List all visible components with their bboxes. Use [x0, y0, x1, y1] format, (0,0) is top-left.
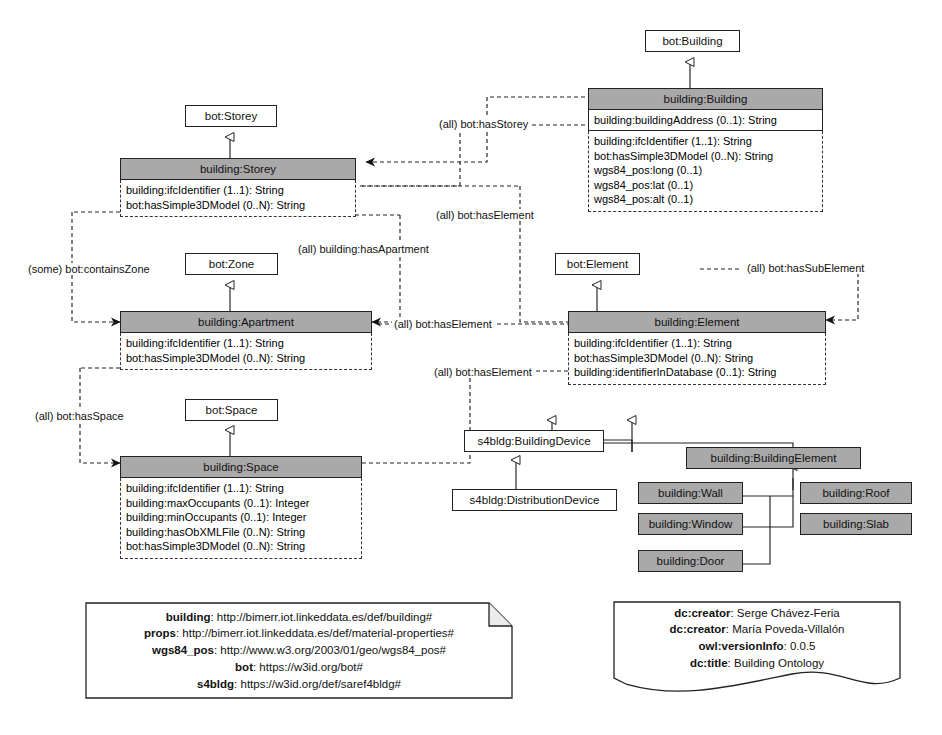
attr-row: building:ifcIdentifier (1..1): String	[574, 336, 820, 351]
class-building-buildingelement[interactable]: building:BuildingElement	[686, 447, 861, 469]
class-building-roof[interactable]: building:Roof	[800, 482, 912, 504]
prefix-uri: http://bimerr.iot.linkeddata.es/def/buil…	[217, 611, 432, 623]
prefix-key: s4bldg	[197, 678, 234, 690]
class-bot-zone[interactable]: bot:Zone	[185, 253, 278, 275]
class-bot-storey-title: bot:Storey	[185, 105, 277, 127]
metadata-note-line: dc:creator: Serge Chávez-Feria	[674, 605, 840, 622]
wire-window-slab	[740, 496, 793, 527]
class-building-storey-attrs: building:ifcIdentifier (1..1): String bo…	[120, 180, 356, 217]
attr-row: building:minOccupants (0..1): Integer	[126, 510, 356, 525]
attr-row: building:maxOccupants (0..1): Integer	[126, 496, 356, 511]
attr-row: bot:hasSimple3DModel (0..N): String	[574, 351, 820, 366]
class-building-space-attrs: building:ifcIdentifier (1..1): String bu…	[120, 478, 362, 559]
class-bot-building-title: bot:Building	[645, 30, 740, 52]
prefix-uri: https://w3id.org/def/saref4bldg#	[240, 678, 400, 690]
prefix-note-line: bot: https://w3id.org/bot#	[235, 659, 363, 676]
edge-label-has-sub-element: (all) bot:hasSubElement	[745, 262, 866, 274]
class-bot-element-title: bot:Element	[555, 253, 640, 275]
metadata-note: dc:creator: Serge Chávez-Feria dc:creato…	[612, 600, 902, 698]
prefix-note-line: s4bldg: https://w3id.org/def/saref4bldg#	[197, 676, 401, 693]
attr-row: building:ifcIdentifier (1..1): String	[594, 134, 817, 149]
metadata-key: dc:creator	[670, 623, 726, 635]
attr-row: wgs84_pos:alt (0..1)	[594, 192, 817, 207]
prefix-note-text: building: http://bimerr.iot.linkeddata.e…	[85, 602, 513, 699]
edge-label-has-space: (all) bot:hasSpace	[33, 410, 126, 422]
prefix-uri: https://w3id.org/bot#	[259, 661, 363, 673]
metadata-key: dc:title	[690, 657, 728, 669]
class-building-buildingelement-title: building:BuildingElement	[686, 447, 861, 469]
metadata-note-text: dc:creator: Serge Chávez-Feria dc:creato…	[612, 600, 902, 676]
prefix-note-line: props: http://bimerr.iot.linkeddata.es/d…	[144, 625, 454, 642]
class-building-wall[interactable]: building:Wall	[638, 482, 743, 504]
prefix-uri: http://www.w3.org/2003/01/geo/wgs84_pos#	[220, 644, 446, 656]
metadata-key: owl:versionInfo	[699, 640, 784, 652]
class-s4bldg-buildingdevice-title: s4bldg:BuildingDevice	[464, 430, 604, 452]
class-building-storey[interactable]: building:Storey building:ifcIdentifier (…	[120, 158, 356, 217]
prefix-key: building	[166, 611, 211, 623]
class-building-window-title: building:Window	[638, 513, 743, 535]
class-building-element-title: building:Element	[568, 311, 826, 333]
metadata-note-line: owl:versionInfo: 0.0.5	[699, 638, 816, 655]
attr-row: bot:hasSimple3DModel (0..N): String	[126, 198, 350, 213]
edge-label-has-element-1: (all) bot:hasElement	[434, 209, 536, 221]
wire-door	[740, 496, 770, 564]
class-building-element-attrs: building:ifcIdentifier (1..1): String bo…	[568, 333, 826, 385]
class-bot-zone-title: bot:Zone	[185, 253, 278, 275]
attr-row: bot:hasSimple3DModel (0..N): String	[126, 351, 366, 366]
class-building-door[interactable]: building:Door	[638, 550, 743, 572]
metadata-value: María Poveda-Villalón	[732, 623, 844, 635]
attr-row: wgs84_pos:lat (0..1)	[594, 178, 817, 193]
class-building-element[interactable]: building:Element building:ifcIdentifier …	[568, 311, 826, 385]
metadata-value: Serge Chávez-Feria	[737, 607, 840, 619]
class-building-apartment-attrs: building:ifcIdentifier (1..1): String bo…	[120, 333, 372, 370]
attr-row: building:ifcIdentifier (1..1): String	[126, 183, 350, 198]
prefix-key: bot	[235, 661, 253, 673]
prefix-note-line: building: http://bimerr.iot.linkeddata.e…	[166, 609, 433, 626]
attr-row: building:ifcIdentifier (1..1): String	[126, 481, 356, 496]
class-building-building-attrs: building:ifcIdentifier (1..1): String bo…	[588, 131, 823, 212]
class-building-wall-title: building:Wall	[638, 482, 743, 504]
class-building-building-mid: building:buildingAddress (0..1): String	[588, 110, 823, 131]
metadata-value: Building Ontology	[734, 657, 824, 669]
prefix-note: building: http://bimerr.iot.linkeddata.e…	[85, 602, 513, 699]
class-bot-building[interactable]: bot:Building	[645, 30, 740, 52]
class-s4bldg-distributiondevice[interactable]: s4bldg:DistributionDevice	[452, 489, 617, 511]
prefix-uri: http://bimerr.iot.linkeddata.es/def/mate…	[182, 627, 454, 639]
class-building-slab[interactable]: building:Slab	[800, 513, 912, 535]
class-building-space-title: building:Space	[120, 456, 362, 478]
class-bot-space[interactable]: bot:Space	[185, 399, 278, 421]
class-building-space[interactable]: building:Space building:ifcIdentifier (1…	[120, 456, 362, 559]
attr-row: wgs84_pos:long (0..1)	[594, 163, 817, 178]
attr-row: bot:hasSimple3DModel (0..N): String	[594, 149, 817, 164]
class-s4bldg-buildingdevice[interactable]: s4bldg:BuildingDevice	[464, 430, 604, 452]
class-bot-space-title: bot:Space	[185, 399, 278, 421]
class-building-roof-title: building:Roof	[800, 482, 912, 504]
edge-label-contains-zone: (some) bot:containsZone	[26, 263, 152, 275]
class-building-window[interactable]: building:Window	[638, 513, 743, 535]
edge-building-has-element-seg1	[360, 125, 592, 186]
metadata-value: 0.0.5	[790, 640, 816, 652]
metadata-note-line: dc:creator: María Poveda-Villalón	[670, 621, 845, 638]
prefix-key: wgs84_pos	[152, 644, 214, 656]
class-building-building[interactable]: building:Building building:buildingAddre…	[588, 88, 823, 212]
class-bot-element[interactable]: bot:Element	[555, 253, 640, 275]
attr-row: building:hasObXMLFile (0..N): String	[126, 525, 356, 540]
prefix-key: props	[144, 627, 176, 639]
class-building-storey-title: building:Storey	[120, 158, 356, 180]
class-building-apartment[interactable]: building:Apartment building:ifcIdentifie…	[120, 311, 372, 370]
class-building-door-title: building:Door	[638, 550, 743, 572]
attr-row: building:identifierInDatabase (0..1): St…	[574, 365, 820, 380]
class-s4bldg-distributiondevice-title: s4bldg:DistributionDevice	[452, 489, 617, 511]
edge-label-has-element-2: (all) bot:hasElement	[392, 318, 494, 330]
metadata-key: dc:creator	[674, 607, 730, 619]
edge-label-has-storey: (all) bot:hasStorey	[437, 118, 530, 130]
class-bot-storey[interactable]: bot:Storey	[185, 105, 277, 127]
edge-has-apartment	[372, 215, 400, 322]
attr-row: bot:hasSimple3DModel (0..N): String	[126, 539, 356, 554]
attr-row: building:ifcIdentifier (1..1): String	[126, 336, 366, 351]
class-building-building-title: building:Building	[588, 88, 823, 110]
ontology-diagram-canvas: bot:Storey building:Storey building:ifcI…	[0, 0, 942, 735]
class-building-slab-title: building:Slab	[800, 513, 912, 535]
class-building-apartment-title: building:Apartment	[120, 311, 372, 333]
edge-label-has-apartment: (all) building:hasApartment	[296, 243, 431, 255]
